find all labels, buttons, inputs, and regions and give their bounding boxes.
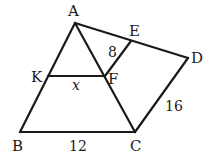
measure-EF: 8 xyxy=(108,44,117,60)
label-D: D xyxy=(191,49,203,67)
label-K: K xyxy=(31,68,43,86)
measure-labels: 8 x 16 12 xyxy=(69,44,183,154)
measure-BC: 12 xyxy=(69,138,87,154)
label-E: E xyxy=(129,22,140,40)
label-B: B xyxy=(12,137,23,155)
segment-AB xyxy=(20,23,75,132)
label-C: C xyxy=(130,137,141,155)
measure-DC: 16 xyxy=(165,98,183,114)
segments xyxy=(20,23,188,132)
measure-KF: x xyxy=(72,77,80,93)
label-A: A xyxy=(67,2,79,20)
label-F: F xyxy=(108,70,118,88)
segment-DC xyxy=(135,58,188,132)
geometry-diagram: A E D K F B C 8 x 16 12 xyxy=(0,0,212,158)
